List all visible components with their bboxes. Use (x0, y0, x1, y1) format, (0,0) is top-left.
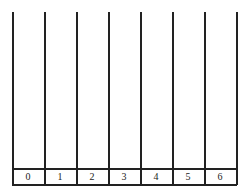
divider-line (108, 12, 110, 185)
divider-line (236, 12, 238, 185)
label-row-bottom-border (12, 184, 237, 186)
divider-line (76, 12, 78, 185)
divider-line (140, 12, 142, 185)
column-label: 4 (140, 169, 172, 184)
column-label: 1 (44, 169, 76, 184)
divider-line (12, 12, 14, 185)
divider-line (172, 12, 174, 185)
column-label: 6 (204, 169, 236, 184)
column-label: 2 (76, 169, 108, 184)
column-label: 5 (172, 169, 204, 184)
divider-line (204, 12, 206, 185)
divider-line (44, 12, 46, 185)
column-label: 0 (12, 169, 44, 184)
column-label: 3 (108, 169, 140, 184)
